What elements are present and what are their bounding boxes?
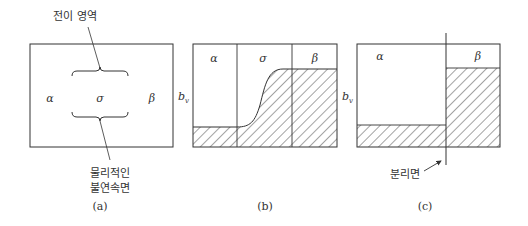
phase-sigma-label: σ (259, 52, 267, 65)
phase-sigma-label: σ (96, 92, 104, 105)
transition-region-label: 전이 영역 (53, 10, 97, 23)
caption-c: (c) (418, 200, 433, 213)
discontinuity-label-line1: 물리적인 (90, 167, 130, 180)
panel-c: α β bv 분리면 (c) (342, 33, 500, 213)
phase-alpha-label: α (210, 52, 218, 65)
transition-leader-line (88, 27, 100, 68)
discontinuity-label-line2: 불연속면 (90, 182, 130, 195)
phase-alpha-label: α (46, 92, 54, 105)
axis-label-bv: bv (178, 90, 189, 105)
phase-beta-label: β (474, 50, 481, 63)
phase-beta-label: β (148, 92, 155, 105)
diagram-canvas: 전이 영역 α σ β 물리적인 불연속면 (a) α σ β bv (b) α… (0, 0, 528, 226)
axis-label-bv: bv (342, 90, 353, 105)
phase-alpha-label: α (376, 50, 384, 63)
dividing-surface-label: 분리면 (390, 168, 420, 181)
hatched-excess-region (193, 69, 337, 147)
phase-beta-label: β (311, 52, 318, 65)
bottom-brace (72, 112, 128, 121)
panel-b: α σ β bv (b) (178, 44, 337, 213)
caption-a: (a) (92, 200, 107, 213)
top-brace (72, 67, 128, 76)
panel-a: 전이 영역 α σ β 물리적인 불연속면 (a) (30, 10, 173, 213)
dividing-surface-arrow-icon (424, 161, 441, 171)
hatched-beta-region (446, 68, 500, 147)
discontinuity-leader-line (100, 121, 110, 160)
caption-b: (b) (257, 200, 273, 213)
hatched-alpha-region (357, 125, 446, 147)
